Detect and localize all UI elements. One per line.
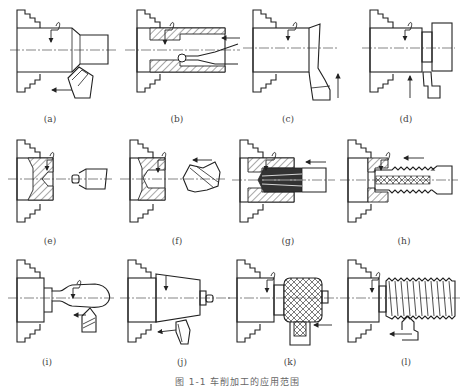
panel-l <box>340 260 460 342</box>
figure-caption: 图 1-1 车削加工的应用范围 <box>175 375 300 388</box>
panel-d <box>362 10 455 98</box>
panel-label-l: (l) <box>401 357 411 367</box>
panel-label-a: (a) <box>44 114 56 124</box>
panel-i <box>8 260 115 342</box>
panel-label-g: (g) <box>282 236 295 246</box>
panel-j <box>120 260 230 344</box>
panel-k <box>228 260 340 345</box>
panel-a <box>10 10 118 98</box>
panel-label-b: (b) <box>171 114 184 124</box>
panel-label-d: (d) <box>400 114 413 124</box>
panel-g <box>232 140 335 222</box>
panel-label-j: (j) <box>177 357 187 367</box>
panel-label-e: (e) <box>44 236 56 246</box>
panel-e <box>8 140 112 222</box>
panel-c <box>243 10 338 100</box>
panel-label-k: (k) <box>284 357 296 367</box>
panel-label-f: (f) <box>172 236 182 246</box>
panel-label-i: (i) <box>42 357 52 367</box>
panel-label-h: (h) <box>398 236 411 246</box>
panel-h <box>340 140 458 222</box>
panel-b <box>125 10 240 92</box>
panel-label-c: (c) <box>282 114 294 124</box>
panel-f <box>120 140 225 222</box>
